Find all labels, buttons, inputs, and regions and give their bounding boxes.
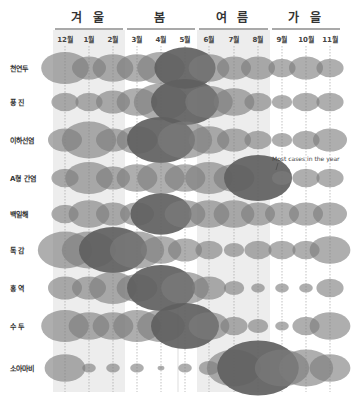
bubble xyxy=(45,354,86,382)
season-label: 봄 xyxy=(154,11,168,25)
bubble xyxy=(244,131,271,149)
bubble xyxy=(316,169,343,187)
bubble xyxy=(244,93,271,111)
bubble xyxy=(316,279,343,297)
month-label: 1월 xyxy=(84,35,95,44)
month-label: 5월 xyxy=(180,35,191,44)
month-label: 10월 xyxy=(298,35,314,44)
month-label: 3월 xyxy=(132,35,143,44)
month-label: 4월 xyxy=(156,35,167,44)
bubble xyxy=(224,281,244,295)
bubble xyxy=(292,169,319,187)
bubble xyxy=(220,317,247,335)
season-label: 겨 울 xyxy=(71,10,106,25)
bubble xyxy=(292,93,319,111)
bubble xyxy=(106,363,120,372)
row-label: A형 간염 xyxy=(10,174,36,183)
bubble xyxy=(158,366,165,371)
bubble xyxy=(268,241,295,259)
bubble xyxy=(248,319,268,333)
bubble xyxy=(272,95,292,109)
row-label: 소아마비 xyxy=(10,364,34,373)
bubble xyxy=(244,241,271,259)
bubble xyxy=(310,354,351,382)
bubble xyxy=(224,243,244,257)
bubble xyxy=(272,171,292,185)
month-label: 2월 xyxy=(108,35,119,44)
bubble xyxy=(275,321,289,330)
row-label: 이하선염 xyxy=(10,136,34,145)
month-label: 8월 xyxy=(253,35,264,44)
month-label: 12월 xyxy=(57,35,73,44)
bubble xyxy=(313,203,347,226)
bubble xyxy=(316,93,343,111)
bubble xyxy=(313,129,347,152)
bubble xyxy=(82,363,96,372)
annotation-text: Most cases in the year xyxy=(272,155,340,163)
row-label: 독 감 xyxy=(10,246,25,255)
bubble xyxy=(272,133,292,147)
bubble xyxy=(195,241,222,259)
season-label: 여 름 xyxy=(216,10,251,25)
month-label: 6월 xyxy=(204,35,215,44)
bubble xyxy=(192,277,226,300)
row-label: 백일해 xyxy=(10,210,28,219)
month-label: 11월 xyxy=(322,35,338,44)
bubble xyxy=(275,283,289,292)
bubble xyxy=(316,59,343,77)
row-label: 홍 역 xyxy=(10,284,24,293)
season-label: 가 을 xyxy=(288,10,323,25)
month-label: 7월 xyxy=(229,35,240,44)
bubble xyxy=(310,236,351,264)
seasonal-disease-bubble-chart: 겨 울봄여 름가 을12월1월2월3월4월5월6월7월8월9월10월11월 천연… xyxy=(0,0,363,405)
month-label: 9월 xyxy=(277,35,288,44)
row-label: 천연두 xyxy=(10,64,29,73)
bubble xyxy=(178,363,192,372)
row-labels: 천연두풍 진이하선염A형 간염백일해독 감홍 역수 두소아마비 xyxy=(10,64,36,373)
bubble xyxy=(251,283,265,292)
row-label: 풍 진 xyxy=(10,98,24,107)
bubble xyxy=(130,363,144,372)
bubble xyxy=(299,283,313,292)
bubble xyxy=(310,312,351,340)
row-label: 수 두 xyxy=(10,323,25,331)
bubble xyxy=(51,93,78,111)
